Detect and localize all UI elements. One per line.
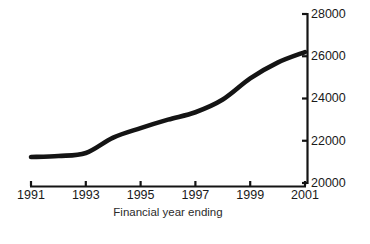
x-tick-label: 1991 [17,188,45,202]
y-tick-label: 28000 [311,7,346,21]
y-axis-tick-labels: 2000022000240002600028000 [311,7,346,190]
x-axis-ticks [31,181,305,186]
x-tick-label: 1999 [236,188,264,202]
y-axis-group: 2000022000240002600028000 [302,7,346,190]
y-tick-label: 24000 [311,91,346,105]
x-axis-group: 199119931995199719992001 [17,181,319,202]
y-tick-label: 22000 [311,134,346,148]
x-axis-tick-labels: 199119931995199719992001 [17,188,319,202]
x-tick-label: 1997 [181,188,209,202]
x-tick-label: 1995 [127,188,155,202]
y-tick-label: 26000 [311,49,346,63]
x-tick-label: 1993 [72,188,100,202]
line-chart: 2000022000240002600028000 19911993199519… [0,0,370,244]
data-series-line [31,52,305,157]
chart-container: 2000022000240002600028000 19911993199519… [0,0,370,244]
y-axis-ticks [302,14,307,183]
x-tick-label: 2001 [291,188,319,202]
x-axis-title: Financial year ending [113,206,222,218]
